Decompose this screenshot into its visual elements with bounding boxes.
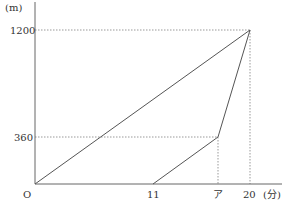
origin-label: O: [23, 189, 31, 200]
distance-time-chart: (m) 1200 360 O 11 ア 20 (分): [0, 0, 304, 212]
series-line-1: [35, 30, 250, 184]
series-line-2: [153, 30, 250, 184]
y-axis-unit-label: (m): [5, 2, 22, 13]
y-tick-1200: 1200: [10, 25, 35, 36]
x-axis-unit-label: (分): [263, 189, 281, 200]
y-tick-360: 360: [14, 132, 33, 143]
x-tick-a: ア: [213, 189, 223, 200]
x-tick-20: 20: [243, 189, 256, 200]
x-tick-11: 11: [147, 189, 160, 200]
